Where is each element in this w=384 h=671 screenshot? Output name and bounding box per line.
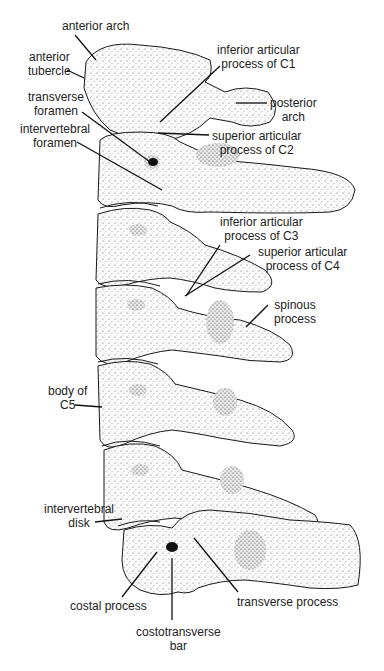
label-spinous-process: spinous process	[274, 298, 316, 326]
cervical-spine-diagram: anterior arch anterior tubercle inferior…	[0, 0, 384, 671]
c4-vertebra	[96, 285, 292, 364]
c5-vertebra	[98, 361, 294, 447]
label-superior-articular-process-c2: superior articular process of C2	[212, 129, 301, 157]
label-intervertebral-disk: intervertebral disk	[44, 502, 114, 530]
label-body-of-c5: body of C5	[48, 384, 87, 412]
label-inferior-articular-process-c3: inferior articular process of C3	[220, 215, 303, 243]
label-anterior-arch: anterior arch	[62, 19, 129, 33]
label-inferior-articular-process-c1: inferior articular process of C1	[217, 43, 300, 71]
label-superior-articular-process-c4: superior articular process of C4	[258, 245, 347, 273]
label-intervertebral-foramen: intervertebral foramen	[20, 122, 90, 150]
label-costotransverse-bar: costotransverse bar	[136, 625, 221, 653]
label-costal-process: costal process	[70, 599, 147, 613]
label-anterior-tubercle: anterior tubercle	[28, 50, 71, 78]
label-posterior-arch: posterior arch	[270, 96, 317, 124]
label-transverse-process: transverse process	[237, 595, 338, 609]
label-transverse-foramen: transverse foramen	[28, 90, 84, 118]
